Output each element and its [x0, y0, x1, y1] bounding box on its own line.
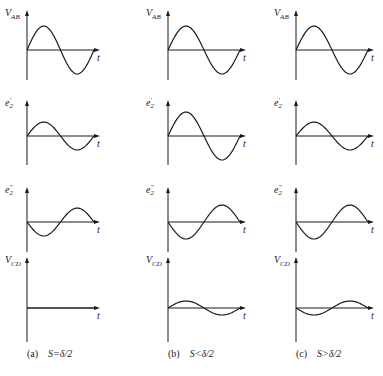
plot-b-e2pp: [166, 187, 246, 252]
y-label-e2p: e′2: [146, 98, 154, 109]
t-label: t: [243, 311, 246, 321]
caption-a: (a) S=δ/2: [27, 348, 72, 359]
plot-c-vab: [294, 10, 374, 80]
t-label: t: [97, 53, 100, 63]
y-axis-arrow-icon: [166, 257, 170, 263]
t-label: t: [371, 311, 374, 321]
y-axis-arrow-icon: [294, 187, 298, 193]
y-axis-arrow-icon: [166, 10, 170, 16]
y-label-e2p: e′2: [5, 98, 13, 109]
plot-a-vcd: [25, 257, 100, 342]
t-label: t: [243, 139, 246, 149]
t-label: t: [371, 139, 374, 149]
y-axis-arrow-icon: [294, 100, 298, 106]
y-axis-arrow-icon: [25, 257, 29, 263]
plot-b-e2p: [166, 100, 246, 165]
plot-a-e2pp: [25, 187, 100, 252]
t-label: t: [97, 311, 100, 321]
t-label: t: [371, 53, 374, 63]
y-label-e2pp: e″2: [146, 185, 154, 196]
plot-a-vab: [25, 10, 100, 80]
y-label-e2p: e′2: [274, 98, 282, 109]
plot-a-e2p: [25, 100, 100, 165]
plot-c-vcd: [294, 257, 374, 342]
t-label: t: [243, 225, 246, 235]
t-label: t: [371, 225, 374, 235]
t-label: t: [97, 225, 100, 235]
waveform-diagram: [0, 0, 383, 376]
y-axis-arrow-icon: [294, 10, 298, 16]
caption-b: (b) S<δ/2: [168, 348, 214, 359]
caption-c: (c) S>δ/2: [296, 348, 341, 359]
plot-c-e2pp: [294, 187, 374, 252]
plot-c-e2p: [294, 100, 374, 165]
y-axis-arrow-icon: [25, 10, 29, 16]
y-label-vab: VAB: [5, 8, 20, 21]
y-axis-arrow-icon: [166, 100, 170, 106]
y-label-vcd: VCD: [146, 255, 162, 268]
y-label-vcd: VCD: [5, 255, 21, 268]
y-axis-arrow-icon: [25, 187, 29, 193]
y-axis-arrow-icon: [25, 100, 29, 106]
plot-b-vcd: [166, 257, 246, 342]
y-label-vcd: VCD: [274, 255, 290, 268]
y-axis-arrow-icon: [294, 257, 298, 263]
t-label: t: [97, 139, 100, 149]
y-label-e2pp: e″2: [274, 185, 282, 196]
t-label: t: [243, 53, 246, 63]
y-label-vab: VAB: [274, 8, 289, 21]
y-axis-arrow-icon: [166, 187, 170, 193]
y-label-vab: VAB: [146, 8, 161, 21]
plot-b-vab: [166, 10, 246, 80]
y-label-e2pp: e″2: [5, 185, 13, 196]
